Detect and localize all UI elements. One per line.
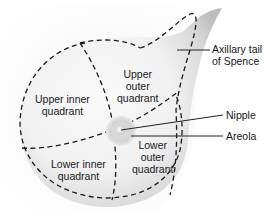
areola-text: Areola [226,130,256,142]
label-areola: Areola [226,130,256,142]
upper-outer-line3: quadrant [117,92,158,104]
lower-outer-line1: Lower [132,139,173,151]
label-upper-inner-quadrant: Upper inner quadrant [35,93,90,117]
lower-outer-line2: outer [132,151,173,163]
nipple-text: Nipple [226,109,256,121]
upper-outer-line2: outer [117,80,158,92]
lower-inner-line1: Lower inner [51,158,106,170]
label-nipple: Nipple [226,109,256,121]
axillary-tail-line1: Axillary tail [212,43,262,55]
label-lower-inner-quadrant: Lower inner quadrant [51,158,106,182]
upper-inner-line2: quadrant [35,105,90,117]
label-axillary-tail: Axillary tail of Spence [212,43,262,67]
upper-outer-line1: Upper [117,68,158,80]
axillary-tail-line2: of Spence [212,55,262,67]
lower-outer-line3: quadrant [132,163,173,175]
lower-inner-line2: quadrant [51,170,106,182]
upper-inner-line1: Upper inner [35,93,90,105]
label-upper-outer-quadrant: Upper outer quadrant [117,68,158,104]
breast-quadrant-diagram: Upper inner quadrant Upper outer quadran… [0,0,273,220]
label-lower-outer-quadrant: Lower outer quadrant [132,139,173,175]
